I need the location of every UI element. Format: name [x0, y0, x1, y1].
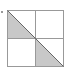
corner-marker	[1, 11, 3, 13]
shaded-grid-diagram	[0, 0, 67, 69]
